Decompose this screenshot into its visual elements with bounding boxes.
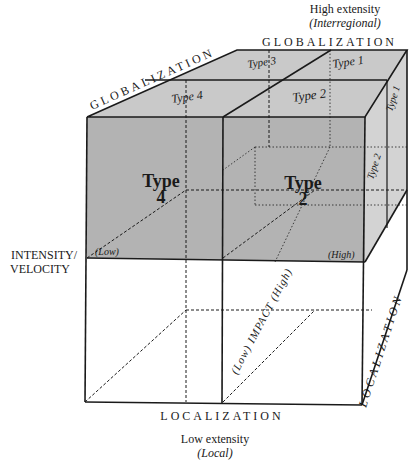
low-extensity-sublabel: (Local) [197,446,232,460]
high-extensity-sublabel: (Interregional) [309,16,381,30]
front-type4-number: 4 [157,187,166,207]
globalization-cube-diagram: High extensity (Interregional) GLOBALIZA… [0,0,420,467]
intensity-high-label: (High) [328,249,355,261]
low-extensity-label: Low extensity [181,432,249,446]
intensity-low-label: (Low) [95,246,120,258]
high-extensity-label: High extensity [310,2,380,16]
intensity-label-line2: VELOCITY [10,262,70,276]
intensity-label-line1: INTENSITY/ [11,248,78,262]
localization-bottom-label: LOCALIZATION [160,409,283,423]
front-type2-number: 2 [299,189,308,209]
impact-axis-label: (Low) IMPACT (High) [228,266,295,376]
globalization-top-label: GLOBALIZATION [262,35,397,49]
